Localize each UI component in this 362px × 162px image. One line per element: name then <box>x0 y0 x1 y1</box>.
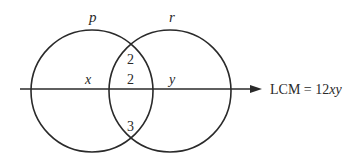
region-r-only: y <box>167 72 176 87</box>
region-intersection-bottom: 3 <box>127 119 134 134</box>
venn-diagram: p r x 2 2 3 y LCM = 12xy <box>0 0 362 162</box>
lcm-label: LCM = 12xy <box>270 82 342 97</box>
region-intersection-top: 2 <box>127 52 134 67</box>
circle-p <box>31 30 153 152</box>
venn-svg: p r x 2 2 3 y LCM = 12xy <box>0 0 362 162</box>
lcm-label-vars: xy <box>328 82 342 97</box>
lcm-label-prefix: LCM = 12 <box>270 82 329 97</box>
circle-p-label: p <box>88 9 97 25</box>
region-intersection-middle: 2 <box>127 72 134 87</box>
region-p-only: x <box>84 72 92 87</box>
circle-r-label: r <box>169 9 175 25</box>
arrow-head-icon <box>250 85 262 93</box>
